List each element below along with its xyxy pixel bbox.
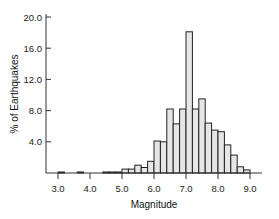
y-tick-label: 4.0 xyxy=(29,136,42,147)
x-tick-label: 3.0 xyxy=(51,183,64,194)
x-tick-label: 6.0 xyxy=(147,183,160,194)
histogram-bar xyxy=(218,132,224,173)
histogram-bar xyxy=(160,142,166,173)
y-tick-label: 20.0 xyxy=(24,12,43,23)
y-tick-label: 8.0 xyxy=(29,105,42,116)
histogram-bar xyxy=(205,123,211,173)
x-axis-title: Magnitude xyxy=(131,199,178,210)
bars-group xyxy=(58,32,250,173)
histogram-bar xyxy=(212,130,218,173)
histogram-bar xyxy=(199,99,205,173)
histogram-bar xyxy=(167,109,173,173)
x-tick-label: 7.0 xyxy=(179,183,192,194)
histogram-bar xyxy=(128,169,134,173)
x-tick-label: 5.0 xyxy=(115,183,128,194)
histogram-bar xyxy=(231,155,237,173)
y-tick-label: 16.0 xyxy=(24,43,43,54)
x-tick-label: 4.0 xyxy=(83,183,96,194)
histogram-bar xyxy=(154,141,160,173)
x-tick-label: 9.0 xyxy=(243,183,256,194)
histogram-bar xyxy=(180,109,186,173)
histogram-bar xyxy=(186,32,192,173)
histogram-chart: 4.08.012.016.020.0 3.04.05.06.07.08.09.0… xyxy=(0,0,279,219)
y-ticks: 4.08.012.016.020.0 xyxy=(24,12,52,148)
histogram-bar xyxy=(122,169,128,173)
histogram-bar xyxy=(141,168,147,174)
histogram-bar xyxy=(135,165,141,173)
x-ticks: 3.04.05.06.07.08.09.0 xyxy=(51,173,256,194)
x-tick-label: 8.0 xyxy=(211,183,224,194)
histogram-bar xyxy=(148,161,154,173)
histogram-bar xyxy=(192,109,198,173)
histogram-bar xyxy=(173,124,179,173)
y-tick-label: 12.0 xyxy=(24,74,43,85)
histogram-bar xyxy=(224,145,230,173)
histogram-bar xyxy=(237,167,243,173)
y-axis-title: % of Earthquakes xyxy=(9,55,20,134)
